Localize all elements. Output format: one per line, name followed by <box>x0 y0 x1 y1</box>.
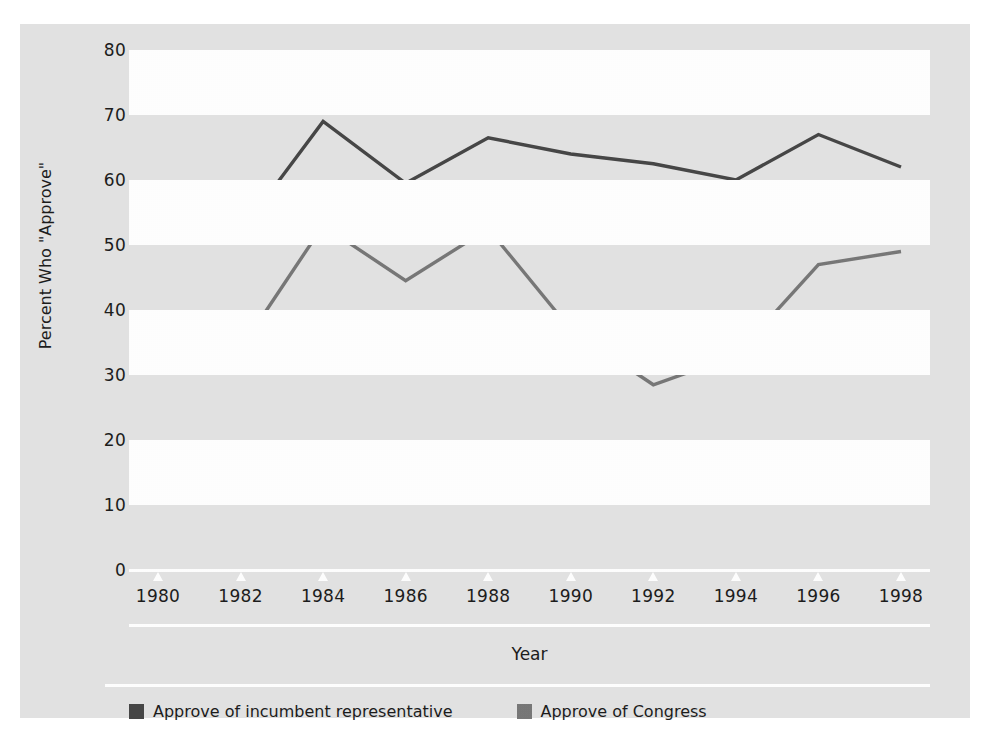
x-axis-tick-mark <box>318 572 328 581</box>
x-axis-tick-label: 1992 <box>631 586 675 606</box>
y-axis-tick-label: 70 <box>104 105 126 125</box>
grid-band <box>129 440 930 505</box>
plot-area <box>129 50 930 570</box>
x-axis-tick-label: 1980 <box>136 586 180 606</box>
grid-band <box>129 310 930 375</box>
y-axis-tick-label: 30 <box>104 365 126 385</box>
y-axis-tick-label: 10 <box>104 495 126 515</box>
legend-item-label: Approve of incumbent representative <box>153 702 453 721</box>
y-axis-title: Percent Who "Approve" <box>36 126 55 386</box>
y-axis-tick-label: 60 <box>104 170 126 190</box>
x-axis-tick-label: 1990 <box>549 586 593 606</box>
grid-band <box>129 50 930 115</box>
y-axis-tick-label: 40 <box>104 300 126 320</box>
x-axis-tick-label: 1996 <box>796 586 840 606</box>
rule-above-x-axis-title <box>129 624 930 627</box>
chart-figure: Percent Who "Approve" 01020304050607080 … <box>20 24 970 718</box>
x-axis-tick-mark <box>896 572 906 581</box>
y-axis-tick-label: 0 <box>115 560 126 580</box>
grid-band <box>129 180 930 245</box>
x-axis-tick-mark <box>483 572 493 581</box>
x-axis-tick-mark <box>401 572 411 581</box>
y-axis-tick-label: 50 <box>104 235 126 255</box>
x-axis-title: Year <box>129 644 930 664</box>
x-axis-tick-labels: 1980198219841986198819901992199419961998 <box>129 572 930 612</box>
legend-item[interactable]: Approve of incumbent representative <box>129 702 453 721</box>
x-axis-tick-label: 1998 <box>879 586 923 606</box>
x-axis-tick-label: 1994 <box>714 586 758 606</box>
x-axis-tick-mark <box>813 572 823 581</box>
rule-above-legend <box>105 684 930 687</box>
legend-item[interactable]: Approve of Congress <box>517 702 707 721</box>
x-axis-tick-label: 1986 <box>383 586 427 606</box>
y-axis-tick-labels: 01020304050607080 <box>90 50 126 570</box>
x-axis-tick-mark <box>566 572 576 581</box>
x-axis-tick-mark <box>731 572 741 581</box>
chart-legend: Approve of incumbent representativeAppro… <box>129 702 707 721</box>
x-axis-tick-mark <box>236 572 246 581</box>
y-axis-tick-label: 20 <box>104 430 126 450</box>
x-axis-tick-mark <box>648 572 658 581</box>
legend-item-label: Approve of Congress <box>541 702 707 721</box>
x-axis-tick-label: 1984 <box>301 586 345 606</box>
x-axis-tick-label: 1988 <box>466 586 510 606</box>
x-axis-tick-label: 1982 <box>218 586 262 606</box>
y-axis-tick-label: 80 <box>104 40 126 60</box>
legend-swatch-icon <box>517 704 532 719</box>
x-axis-tick-mark <box>153 572 163 581</box>
legend-swatch-icon <box>129 704 144 719</box>
